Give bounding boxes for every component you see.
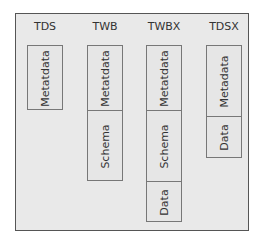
column-title-tds: TDS [20,20,70,33]
block-label: Metatdata [99,50,112,106]
block-label: Metatdata [158,50,171,106]
tds-stack: Metatdata [27,45,63,110]
column-title-tdsx: TDSX [199,20,249,33]
block-label: Data [217,124,230,150]
column-title-twbx: TWBX [139,20,189,33]
column-title-twb: TWB [80,20,130,33]
twbx-schema-block: Schema [147,110,181,181]
block-label: Data [157,189,170,215]
twb-metadata-block: Metatdata [88,46,122,110]
block-label: Metatdata [39,50,52,106]
block-label: Metadata [218,55,231,107]
tdsx-stack: Metadata Data [206,45,242,158]
tds-metadata-block: Metatdata [28,46,62,110]
twb-schema-block: Schema [88,110,122,181]
block-label: Schema [99,124,112,168]
twb-stack: Metatdata Schema [87,45,123,181]
twbx-stack: Metatdata Schema Data [146,45,182,222]
twbx-data-block: Data [147,181,181,222]
twbx-metadata-block: Metatdata [147,46,181,110]
block-label: Schema [158,124,171,168]
tdsx-metadata-block: Metadata [207,46,241,116]
tdsx-data-block: Data [207,116,241,158]
